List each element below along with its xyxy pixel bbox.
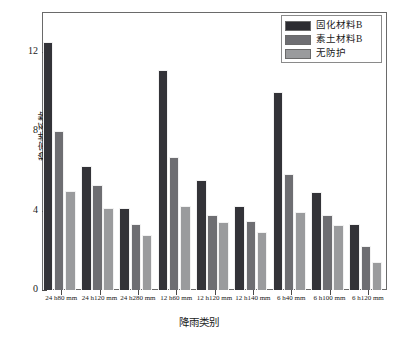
legend-item: 素土材料B [285, 33, 378, 46]
bar [284, 174, 295, 290]
y-tick-label: 0 [16, 284, 38, 294]
bar [273, 92, 284, 290]
legend: 固化材料B 素土材料B 无防护 [281, 15, 382, 63]
legend-label: 无防护 [316, 49, 346, 59]
bar [54, 131, 65, 290]
bar [196, 180, 207, 290]
y-tick-label: 4 [16, 205, 38, 215]
bar [158, 70, 169, 290]
legend-swatch-icon [285, 49, 311, 59]
bar [333, 225, 344, 290]
bar [103, 208, 114, 290]
bar [207, 215, 218, 290]
bar [119, 208, 130, 290]
bar [43, 42, 54, 290]
bar [234, 206, 245, 290]
bar [311, 192, 322, 290]
bar [81, 166, 92, 290]
legend-swatch-icon [285, 35, 311, 45]
bar [361, 246, 372, 290]
bar [180, 206, 191, 290]
legend-item: 固化材料B [285, 19, 378, 32]
bar-chart: 稳定性系数 04812 24 h80 mm24 h120 mm24 h280 m… [0, 0, 397, 339]
y-tick-label: 12 [16, 46, 38, 56]
bar [246, 221, 257, 291]
legend-swatch-icon [285, 21, 311, 31]
bar [295, 212, 306, 290]
bar [218, 222, 229, 290]
bar [169, 157, 180, 290]
bar [131, 224, 142, 290]
y-tick-major [42, 290, 47, 291]
y-tick-minor [42, 12, 45, 13]
x-axis-title: 降雨类别 [0, 314, 397, 329]
bar [92, 185, 103, 290]
bar [142, 235, 153, 290]
legend-item: 无防护 [285, 47, 378, 60]
bar [257, 232, 268, 290]
bar [322, 215, 333, 290]
legend-label: 素土材料B [316, 35, 362, 45]
y-tick-label: 8 [16, 125, 38, 135]
bar [372, 262, 383, 290]
bar [349, 224, 360, 290]
legend-label: 固化材料B [316, 21, 362, 31]
bar [65, 191, 76, 290]
x-tick-label: 6 h120 mm [344, 295, 392, 303]
